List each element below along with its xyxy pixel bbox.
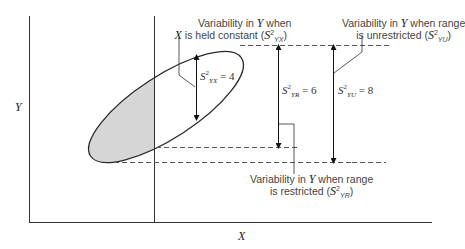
leader-held-constant	[179, 37, 195, 87]
measure-syu: S2YU = 8	[338, 84, 373, 96]
annotation-unrestricted-line1: Variability in Y when range	[342, 17, 465, 29]
annotation-unrestricted-line2: is unrestricted (S2YU)	[342, 29, 465, 41]
restricted-out-region	[74, 32, 259, 182]
leader-restricted	[279, 124, 294, 174]
annotation-held-constant-line2: X is held constant (S2YX)	[170, 29, 291, 41]
measure-syr: S2YR = 6	[282, 84, 316, 96]
annotation-held-constant-line1: Variability in Y when	[170, 17, 291, 29]
annotation-restricted: Variability in Y when range is restricte…	[250, 173, 373, 197]
annotation-restricted-line2: is restricted (S2YR)	[250, 185, 373, 197]
annotation-held-constant: Variability in Y when X is held constant…	[170, 17, 291, 41]
annotation-unrestricted: Variability in Y when range is unrestric…	[342, 17, 465, 41]
x-axis-label: X	[238, 229, 245, 244]
y-axis-label: Y	[15, 100, 22, 115]
annotation-restricted-line1: Variability in Y when range	[250, 173, 373, 185]
measure-syx: S2YX = 4	[200, 70, 234, 82]
